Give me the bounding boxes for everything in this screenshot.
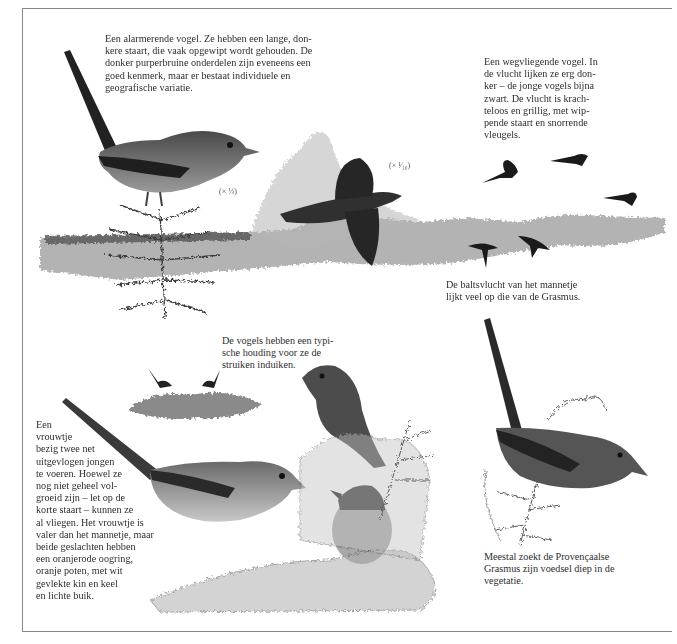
distant-bush-with-birds (128, 368, 262, 419)
caption-flying-bird: Een wegvliegende vogel. In de vlucht lij… (484, 56, 598, 141)
caption-female-feeding: Een vrouwtje bezig twee net uitgevlogen … (36, 419, 154, 602)
foraging-bird (484, 318, 648, 488)
caption-display-flight: De baltsvlucht van het mannetje lijkt ve… (446, 279, 580, 303)
caption-posture: De vogels hebben een typi- sche houding … (222, 335, 333, 372)
caption-alarming-bird: Een alarmerende vogel. Ze hebben een lan… (105, 33, 312, 94)
scale-label-perched: (× ⅓) (219, 187, 237, 196)
caption-foraging: Meestal zoekt de Provençaalse Grasmus zi… (484, 551, 614, 588)
scale-label-flight: (× ¹⁄₁₀) (389, 161, 410, 170)
